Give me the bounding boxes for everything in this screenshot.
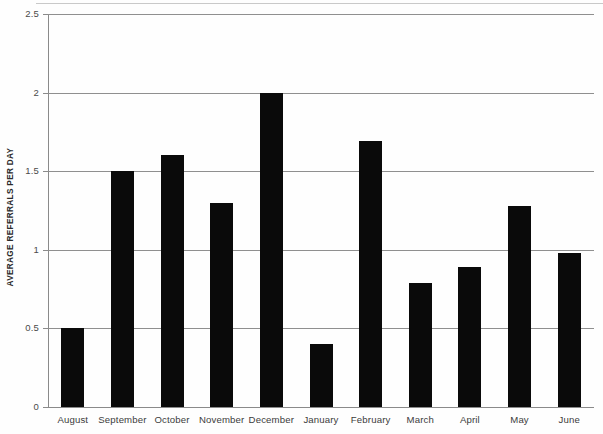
bar — [210, 203, 233, 407]
y-axis-tick-label-wrap: 1 — [0, 245, 39, 255]
x-axis-tick-label: October — [147, 414, 197, 426]
x-axis-tick-label: June — [544, 414, 594, 426]
y-axis-title: AVERAGE REFERRALS PER DAY — [6, 97, 15, 337]
bar — [161, 155, 184, 407]
x-axis-tick-label: September — [98, 414, 148, 426]
x-axis-tick-label: December — [247, 414, 297, 426]
x-axis-tick-label: May — [495, 414, 545, 426]
y-axis-tick-label-wrap: 1.5 — [0, 166, 39, 176]
y-axis-tick-label: 0 — [0, 402, 39, 412]
y-axis-tick-label-wrap: 0.5 — [0, 323, 39, 333]
y-axis-tick-label: 0.5 — [0, 323, 39, 333]
bar — [359, 141, 382, 407]
y-axis-tick-label: 2.5 — [0, 9, 39, 19]
y-axis-tick-label: 1 — [0, 245, 39, 255]
x-axis-tick-label: November — [197, 414, 247, 426]
bar — [508, 206, 531, 407]
x-axis-tick-label: August — [48, 414, 98, 426]
bar — [111, 171, 134, 407]
bar — [260, 93, 283, 407]
gridline — [48, 407, 594, 408]
bar — [409, 283, 432, 407]
bar — [458, 267, 481, 407]
plot-area — [48, 14, 594, 407]
bar-chart: AVERAGE REFERRALS PER DAY 00.511.522.5 A… — [0, 0, 603, 434]
bar — [310, 344, 333, 407]
y-axis-tick-label: 2 — [0, 88, 39, 98]
gridline — [48, 93, 594, 94]
top-rule-artifact — [36, 3, 603, 4]
y-axis-tick-label-wrap: 0 — [0, 402, 39, 412]
y-axis-tick-label-wrap: 2 — [0, 88, 39, 98]
x-axis-tick-label: April — [445, 414, 495, 426]
gridline — [48, 14, 594, 15]
bar — [61, 328, 84, 407]
x-axis-tick-label: January — [296, 414, 346, 426]
bar — [558, 253, 581, 407]
x-axis-tick-label: March — [395, 414, 445, 426]
x-axis-tick-label: February — [346, 414, 396, 426]
y-axis-tick-label-wrap: 2.5 — [0, 9, 39, 19]
y-axis-tick-label: 1.5 — [0, 166, 39, 176]
